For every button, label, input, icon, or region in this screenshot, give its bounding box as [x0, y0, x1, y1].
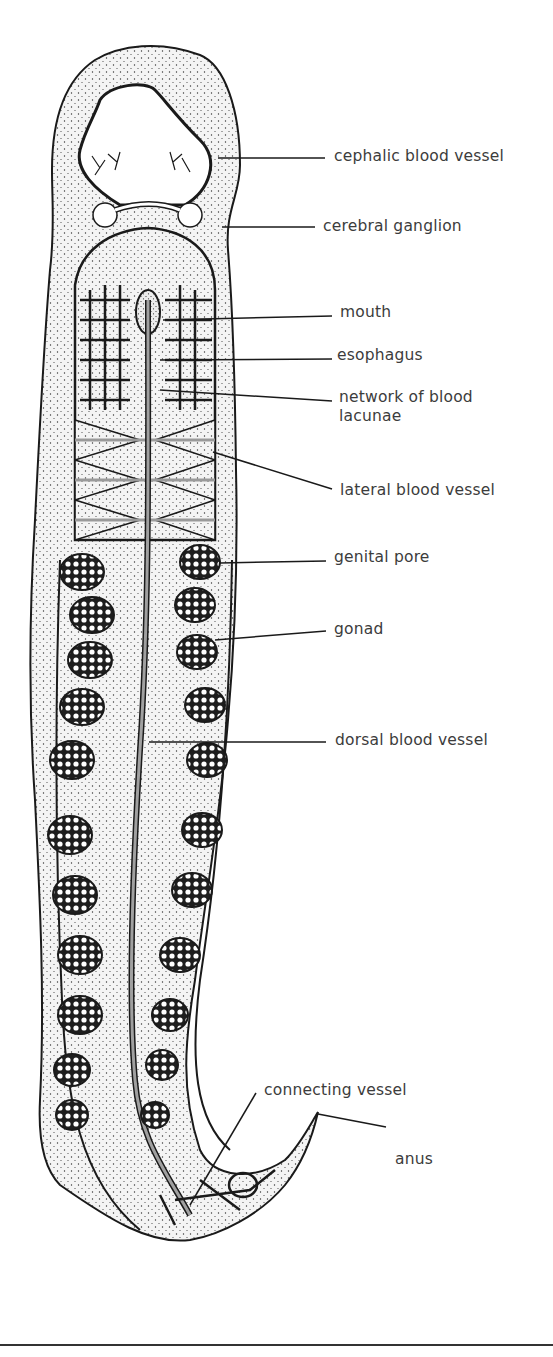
label-genital-pore: genital pore	[334, 548, 430, 567]
worm-anatomy-diagram	[0, 0, 553, 1357]
label-cerebral-ganglion: cerebral ganglion	[323, 217, 462, 236]
label-anus: anus	[395, 1150, 433, 1169]
label-gonad: gonad	[334, 620, 383, 639]
label-lateral-blood-vessel: lateral blood vessel	[340, 481, 495, 500]
label-connecting-vessel: connecting vessel	[264, 1081, 407, 1100]
label-dorsal-blood-vessel: dorsal blood vessel	[335, 731, 488, 750]
label-cephalic-blood-vessel: cephalic blood vessel	[334, 147, 504, 166]
bottom-rule-divider	[0, 1344, 553, 1346]
label-network-of-blood-lacunae: network of blood lacunae	[339, 388, 473, 426]
label-esophagus: esophagus	[337, 346, 423, 365]
label-mouth: mouth	[340, 303, 391, 322]
